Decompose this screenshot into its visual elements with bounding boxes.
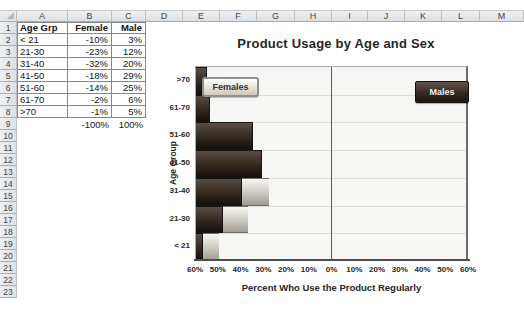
cell-A5[interactable]: 41-50 [17, 70, 68, 82]
cell-C2[interactable]: 3% [112, 34, 146, 46]
row-header-7[interactable]: 7 [0, 94, 17, 106]
cell-A1[interactable]: Age Grp [17, 22, 68, 34]
row-header-19[interactable]: 19 [0, 238, 17, 250]
cell-C8[interactable]: 5% [112, 106, 146, 118]
cell-C9[interactable]: 100% [112, 118, 146, 130]
male-bar-21[interactable] [196, 233, 203, 261]
row-header-13[interactable]: 13 [0, 166, 17, 178]
male-bar-21-30[interactable] [196, 206, 223, 234]
cell-B4[interactable]: -32% [68, 58, 112, 70]
cell-A7[interactable]: 61-70 [17, 94, 68, 106]
value-axis-line [194, 259, 470, 261]
x-axis-title: Percent Who Use the Product Regularly [195, 282, 468, 293]
cell-B9[interactable]: -100% [68, 118, 112, 130]
x-axis-label-12: 60% [453, 265, 483, 274]
males-label-box[interactable]: Males [415, 81, 469, 103]
category-axis-line [331, 67, 332, 259]
pyramid-chart[interactable]: Product Usage by Age and Sex >7061-7051-… [150, 27, 522, 307]
cell-C6[interactable]: 25% [112, 82, 146, 94]
row-header-15[interactable]: 15 [0, 190, 17, 202]
column-header-L[interactable]: L [442, 10, 480, 22]
male-bar-61-70[interactable] [196, 95, 210, 123]
row-header-20[interactable]: 20 [0, 250, 17, 262]
row-header-2[interactable]: 2 [0, 34, 17, 46]
row-header-23[interactable]: 23 [0, 286, 17, 298]
column-header-E[interactable]: E [183, 10, 220, 22]
females-label-box[interactable]: Females [202, 77, 259, 97]
row-header-14[interactable]: 14 [0, 178, 17, 190]
cell-A8[interactable]: >70 [17, 106, 68, 118]
cell-B2[interactable]: -10% [68, 34, 112, 46]
cell-A3[interactable]: 21-30 [17, 46, 68, 58]
row-header-3[interactable]: 3 [0, 46, 17, 58]
row-header-16[interactable]: 16 [0, 202, 17, 214]
cell-A6[interactable]: 51-60 [17, 82, 68, 94]
y-axis-label-5: 21-30 [150, 205, 190, 233]
row-header-12[interactable]: 12 [0, 154, 17, 166]
cell-B6[interactable]: -14% [68, 82, 112, 94]
row-header-5[interactable]: 5 [0, 70, 17, 82]
column-header-J[interactable]: J [368, 10, 405, 22]
y-axis-label-6: < 21 [150, 232, 190, 260]
male-bar-51-60[interactable] [196, 122, 253, 150]
cell-B7[interactable]: -2% [68, 94, 112, 106]
row-header-17[interactable]: 17 [0, 214, 17, 226]
column-header-C[interactable]: C [112, 10, 146, 22]
row-header-6[interactable]: 6 [0, 82, 17, 94]
column-header-K[interactable]: K [405, 10, 442, 22]
cell-B3[interactable]: -23% [68, 46, 112, 58]
column-header-F[interactable]: F [220, 10, 257, 22]
cell-B1[interactable]: Female [68, 22, 112, 34]
chart-title: Product Usage by Age and Sex [150, 36, 522, 51]
cell-B8[interactable]: -1% [68, 106, 112, 118]
select-all-triangle-icon [7, 12, 14, 19]
column-header-A[interactable]: A [17, 10, 68, 22]
row-header-9[interactable]: 9 [0, 118, 17, 130]
row-header-11[interactable]: 11 [0, 142, 17, 154]
column-header-I[interactable]: I [332, 10, 368, 22]
column-header-D[interactable]: D [146, 10, 183, 22]
y-axis-label-1: 61-70 [150, 94, 190, 122]
cell-A4[interactable]: 31-40 [17, 58, 68, 70]
row-header-1[interactable]: 1 [0, 22, 17, 34]
column-header-B[interactable]: B [68, 10, 112, 22]
row-header-18[interactable]: 18 [0, 226, 17, 238]
cell-C7[interactable]: 6% [112, 94, 146, 106]
cell-A2[interactable]: < 21 [17, 34, 68, 46]
column-header-G[interactable]: G [257, 10, 295, 22]
select-all-corner[interactable] [0, 10, 17, 22]
cell-C1[interactable]: Male [112, 22, 146, 34]
column-header-M[interactable]: M [480, 10, 524, 22]
cell-B5[interactable]: -18% [68, 70, 112, 82]
y-axis-label-0: >70 [150, 66, 190, 94]
row-header-4[interactable]: 4 [0, 58, 17, 70]
row-header-8[interactable]: 8 [0, 106, 17, 118]
y-axis-title: Age Group [168, 141, 178, 185]
row-header-21[interactable]: 21 [0, 262, 17, 274]
male-bar-31-40[interactable] [196, 178, 242, 206]
cell-C3[interactable]: 12% [112, 46, 146, 58]
row-header-10[interactable]: 10 [0, 130, 17, 142]
cell-C4[interactable]: 20% [112, 58, 146, 70]
column-header-H[interactable]: H [295, 10, 332, 22]
cell-C5[interactable]: 29% [112, 70, 146, 82]
row-header-22[interactable]: 22 [0, 274, 17, 286]
male-bar-41-50[interactable] [196, 150, 262, 178]
